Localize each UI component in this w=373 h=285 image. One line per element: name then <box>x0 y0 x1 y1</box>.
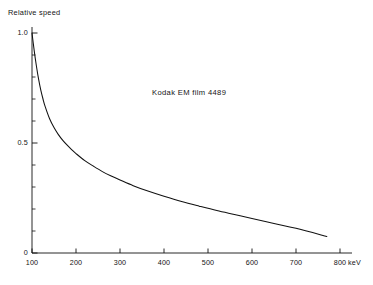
x-tick-label-700: 700 <box>282 258 310 267</box>
x-tick-label-500: 500 <box>194 258 222 267</box>
y-tick-label-0: 0 <box>2 248 28 257</box>
x-tick-label-600: 600 <box>238 258 266 267</box>
axes-group <box>32 27 352 253</box>
x-tick-label-800: 800 <box>326 258 354 267</box>
x-tick-label-300: 300 <box>106 258 134 267</box>
figure-container: Relative speed Kodak EM film 4489 keV 10… <box>0 0 373 285</box>
figure-caption <box>5 276 373 285</box>
chart-plot-area <box>0 0 373 285</box>
chart-annotation-film-label: Kodak EM film 4489 <box>152 88 226 97</box>
y-axis-title: Relative speed <box>8 8 60 17</box>
x-tick-label-100: 100 <box>18 258 46 267</box>
tick-marks-group <box>32 33 340 253</box>
x-tick-label-200: 200 <box>62 258 90 267</box>
y-tick-label-0.5: 0.5 <box>2 138 28 147</box>
x-tick-label-400: 400 <box>150 258 178 267</box>
data-curve-relative-speed <box>32 33 327 237</box>
y-tick-label-1.0: 1.0 <box>2 28 28 37</box>
